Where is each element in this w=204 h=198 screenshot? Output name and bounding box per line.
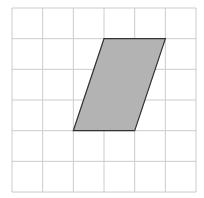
- parallelogram-shape: [73, 39, 165, 131]
- grid-canvas: [0, 0, 204, 198]
- grid-diagram: [0, 0, 204, 198]
